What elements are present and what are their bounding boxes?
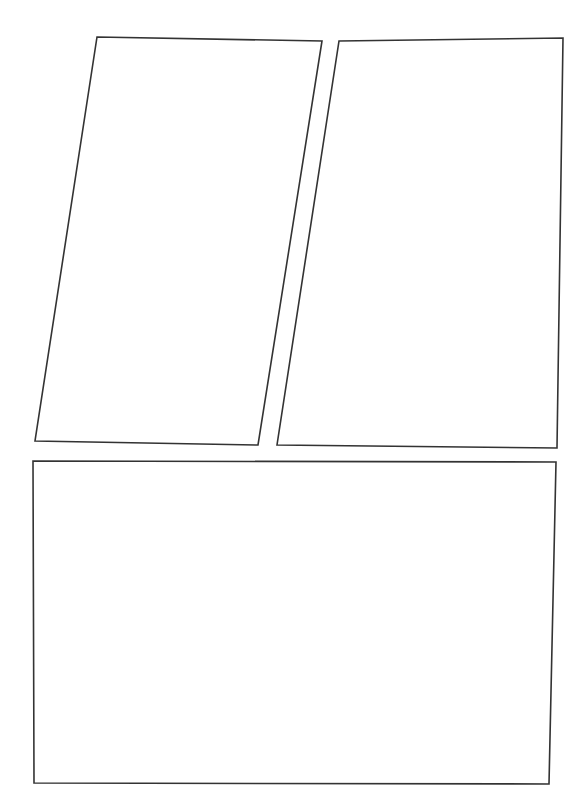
page-canvas: [0, 0, 584, 805]
panel-layout-svg: [0, 0, 584, 805]
panel-3-outline[interactable]: [33, 461, 556, 784]
